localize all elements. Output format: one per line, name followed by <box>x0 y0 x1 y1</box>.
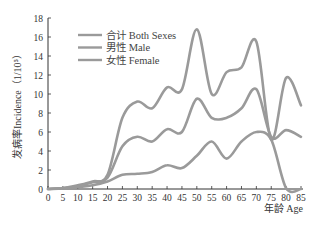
y-tick-label: 10 <box>34 90 44 100</box>
y-tick-label: 16 <box>34 33 44 43</box>
incidence-line-chart: 024681012141618 051015202530354045505560… <box>0 0 319 225</box>
y-tick-label: 14 <box>34 52 44 62</box>
y-axis-title: 发病率Incidence（1/10⁵） <box>11 49 23 159</box>
y-tick-label: 2 <box>38 166 43 176</box>
y-tick-label: 6 <box>38 128 43 138</box>
legend: 合计 Both Sexes男性 Male女性 Female <box>78 29 176 66</box>
x-tick-label: 20 <box>103 193 113 203</box>
x-tick-label: 55 <box>207 193 217 203</box>
y-tick-label: 8 <box>38 109 43 119</box>
legend-item-label: 女性 Female <box>106 54 160 66</box>
legend-item-label: 合计 Both Sexes <box>106 29 176 41</box>
x-tick-label: 70 <box>252 193 262 203</box>
x-tick-label: 15 <box>88 193 98 203</box>
x-tick-label: 75 <box>266 193 276 203</box>
y-tick-label: 4 <box>38 147 43 157</box>
legend-item-label: 男性 Male <box>106 41 151 53</box>
x-tick-label: 30 <box>133 193 143 203</box>
x-tick-label: 85 <box>296 193 306 203</box>
x-tick-label: 25 <box>118 193 128 203</box>
x-tick-label: 35 <box>147 193 157 203</box>
x-tick-label: 65 <box>237 193 247 203</box>
x-tick-label: 10 <box>73 193 83 203</box>
x-tick-label: 50 <box>192 193 202 203</box>
y-tick-label: 12 <box>34 71 44 81</box>
x-tick-label: 40 <box>162 193 172 203</box>
x-tick-label: 60 <box>222 193 232 203</box>
x-tick-label: 80 <box>281 193 291 203</box>
x-tick-label: 0 <box>46 193 51 203</box>
x-axis: 0510152025303540455055606570758085 <box>46 186 306 203</box>
series-female-line <box>48 89 301 189</box>
x-axis-title: 年龄 Age <box>264 202 304 214</box>
series-layer <box>48 29 301 192</box>
x-tick-label: 5 <box>61 193 66 203</box>
y-tick-label: 18 <box>34 14 44 24</box>
x-tick-label: 45 <box>177 193 187 203</box>
y-axis: 024681012141618 <box>34 14 52 195</box>
y-tick-label: 0 <box>38 185 43 195</box>
